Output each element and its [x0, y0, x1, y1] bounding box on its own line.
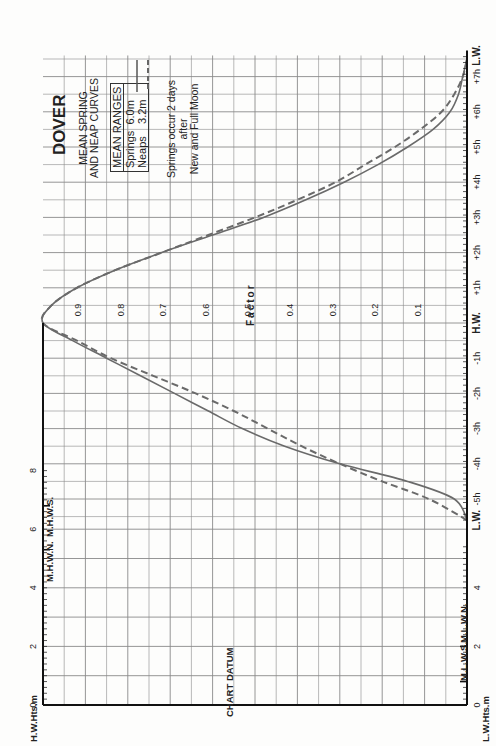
time-tick-label: -2h: [472, 387, 482, 400]
factor-tick-label: 0.8: [116, 304, 126, 317]
mhwn-label: M.H.W.N.: [44, 541, 55, 582]
springs-note: Springs occur 2 days after New and Full …: [166, 80, 201, 178]
subtitle-line-2: AND NEAP CURVES: [89, 78, 100, 178]
factor-tick-label: 0.7: [158, 304, 168, 317]
factor-tick-label: 0.2: [370, 304, 380, 317]
lw-height-tick-label: 4: [472, 585, 482, 590]
time-tick-label: -3h: [472, 422, 482, 435]
time-tick-label: +6h: [472, 104, 482, 119]
hw-heights-axis-label: H.W.Hts.m: [28, 695, 39, 742]
mlws-label: M.L.W.S.: [458, 642, 469, 681]
factor-tick-label: 0.3: [328, 304, 338, 317]
time-tick-label: +7h: [472, 69, 482, 84]
time-tick-label: L.W.: [471, 45, 482, 66]
tidal-curve-chart: L.W.-5h-4h-3h-2h-1hH.W.+1h+2h+3h+4h+5h+6…: [0, 0, 496, 746]
mlwn-label: M.L.W.N.: [458, 603, 469, 643]
hw-height-tick-label: 8: [28, 468, 38, 473]
hw-height-tick-label: 6: [28, 527, 38, 532]
chart-subtitle: MEAN SPRING AND NEAP CURVES: [78, 78, 100, 178]
time-tick-label: +5h: [472, 139, 482, 154]
hw-height-tick-label: 2: [28, 644, 38, 649]
time-tick-label: +3h: [472, 210, 482, 225]
time-tick-label: +1h: [472, 280, 482, 295]
factor-axis-title: Factor: [245, 283, 256, 326]
factor-tick-label: 0.6: [201, 304, 211, 317]
factor-tick-label: 0.4: [285, 304, 295, 317]
time-tick-label: L.W.: [471, 510, 482, 531]
chart-datum-label: CHART DATUM: [224, 648, 235, 717]
time-tick-label: H.W.: [471, 312, 482, 334]
lw-height-tick-label: 2: [472, 644, 482, 649]
time-tick-label: -1h: [472, 352, 482, 365]
legend-header: MEAN RANGES: [111, 84, 124, 171]
time-tick-label: +2h: [472, 245, 482, 260]
mhws-label: M.H.W.S.: [44, 497, 55, 537]
time-tick-label: +4h: [472, 175, 482, 190]
chart-title: DOVER: [50, 95, 70, 155]
lw-heights-axis-label: L.W.Hts.m: [480, 696, 491, 742]
legend-line-samples: [133, 58, 153, 98]
factor-tick-label: 0.9: [73, 304, 83, 317]
time-tick-label: -4h: [472, 457, 482, 470]
factor-tick-label: 0.1: [413, 304, 423, 317]
time-tick-label: -5h: [472, 492, 482, 505]
chart-grid: [43, 55, 467, 705]
hw-height-tick-label: 4: [28, 585, 38, 590]
